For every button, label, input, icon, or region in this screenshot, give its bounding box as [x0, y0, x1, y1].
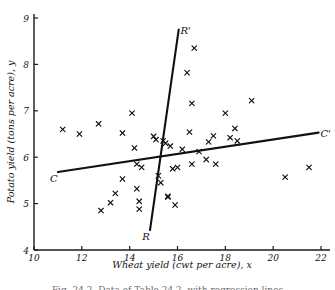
data-point [206, 140, 211, 145]
figure-caption: Fig. 24.2. Data of Table 24.2, with regr… [0, 279, 335, 290]
x-axis-title: Wheat yield (cwt per acre), x [112, 259, 252, 270]
data-points [60, 46, 311, 213]
data-point [185, 70, 190, 75]
data-point [113, 191, 118, 196]
scatter-plot: 10121416182022 456789 CC'RR' Wheat yield… [0, 0, 335, 290]
data-point [170, 167, 175, 172]
data-point [180, 147, 185, 152]
data-point [168, 144, 173, 149]
x-tick-label: 12 [76, 253, 88, 263]
data-point [99, 208, 104, 213]
data-point [190, 101, 195, 106]
data-point [135, 162, 140, 167]
line-label-start: C [50, 173, 58, 184]
data-point [192, 46, 197, 51]
x-tick-label: 22 [314, 253, 327, 263]
regression-of-y-on-x [58, 133, 319, 172]
data-point [211, 134, 216, 139]
y-tick-label: 7 [23, 106, 29, 116]
data-point [120, 177, 125, 182]
data-point [233, 126, 238, 131]
data-point [228, 135, 233, 140]
line-label-start: R [141, 231, 150, 242]
data-point [137, 199, 142, 204]
y-axis-tick-labels: 456789 [22, 14, 29, 256]
y-tick-label: 5 [23, 199, 29, 209]
data-point [307, 165, 312, 170]
data-point [120, 131, 125, 136]
y-axis-title: Potato yield (tons per acre), y [5, 60, 16, 204]
data-point [137, 207, 142, 212]
regression-of-x-on-y [150, 30, 179, 230]
x-tick-label: 20 [266, 253, 279, 263]
data-point [187, 130, 192, 135]
data-point [173, 203, 178, 208]
data-point [283, 175, 288, 180]
data-point [249, 98, 254, 103]
data-point [135, 186, 140, 191]
data-point [132, 146, 137, 151]
y-tick-label: 4 [22, 246, 29, 256]
x-tick-label: 10 [28, 253, 40, 263]
data-point [190, 162, 195, 167]
data-point [235, 139, 240, 144]
data-point [158, 180, 163, 185]
line-label-end: C' [320, 128, 330, 139]
data-point [77, 132, 82, 137]
figure-container: 10121416182022 456789 CC'RR' Wheat yield… [0, 0, 335, 290]
axes [34, 14, 330, 250]
y-tick-label: 8 [23, 60, 29, 70]
y-tick-label: 9 [23, 14, 29, 24]
data-point [213, 162, 218, 167]
data-point [130, 111, 135, 116]
regression-lines [58, 30, 319, 230]
data-point [60, 127, 65, 132]
data-point [223, 111, 228, 116]
y-tick-label: 6 [23, 153, 29, 163]
data-point [108, 200, 113, 205]
data-point [139, 165, 144, 170]
data-point [96, 121, 101, 126]
data-point [175, 165, 180, 170]
data-point [163, 141, 168, 146]
data-point [204, 157, 209, 162]
line-label-end: R' [180, 25, 191, 36]
